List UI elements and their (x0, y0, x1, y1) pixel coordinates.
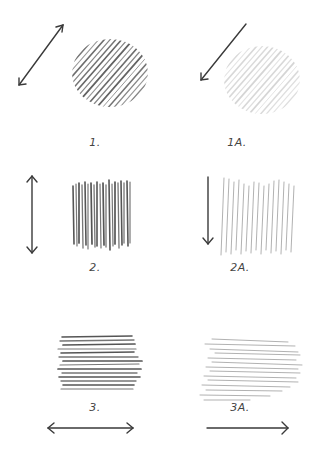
hatch-patch-1a-light-diagonal (192, 27, 325, 139)
arrow-down-left-icon (201, 24, 246, 80)
hatch-patch-3a-light-horizontal (200, 339, 302, 400)
label-3a: 3A. (230, 401, 250, 414)
arrow-double-diagonal-icon (19, 25, 63, 85)
label-3: 3. (89, 401, 101, 414)
arrow-double-horizontal-icon (48, 423, 133, 433)
hatching-illustration (0, 0, 325, 455)
label-2a: 2A. (230, 261, 250, 274)
arrow-down-icon (203, 177, 213, 244)
label-2: 2. (89, 261, 101, 274)
label-1: 1. (89, 136, 101, 149)
hatch-patch-2-heavy-vertical (73, 180, 130, 250)
hatch-patch-3-heavy-horizontal (58, 336, 142, 389)
hatch-patch-2a-light-vertical (221, 178, 294, 255)
arrow-right-icon (207, 422, 288, 434)
hatch-patch-1-heavy-diagonal (40, 20, 174, 132)
arrow-double-vertical-icon (27, 176, 37, 253)
label-1a: 1A. (227, 136, 247, 149)
